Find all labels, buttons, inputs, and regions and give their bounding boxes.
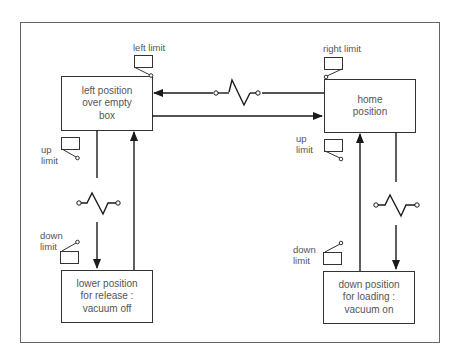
limit-switch-right-icon — [324, 58, 342, 79]
transition-home-down — [374, 132, 419, 269]
state-left-over-box-text: left position over empty box — [62, 77, 152, 130]
limit-switch-right-up-icon — [325, 140, 343, 161]
state-home-text: home position — [325, 80, 415, 132]
transition-left-down — [77, 130, 120, 268]
label-left-limit: left limit — [133, 42, 165, 53]
limit-switch-right-down-icon — [324, 241, 343, 264]
state-down-loading-text: down position for loading : vacuum on — [324, 272, 414, 323]
label-left-up-limit: up limit — [41, 144, 58, 166]
state-lower-release-text: lower position for release : vacuum off — [62, 271, 152, 322]
label-right-down-limit: down limit — [293, 244, 316, 266]
label-right-up-limit: up limit — [296, 133, 313, 155]
label-left-down-limit: down limit — [40, 230, 63, 252]
transition-home-to-left — [154, 80, 324, 105]
label-right-limit: right limit — [323, 43, 361, 54]
limit-switch-left-icon — [134, 56, 153, 78]
limit-switch-left-down-icon — [61, 240, 80, 263]
limit-switch-left-up-icon — [62, 138, 80, 160]
